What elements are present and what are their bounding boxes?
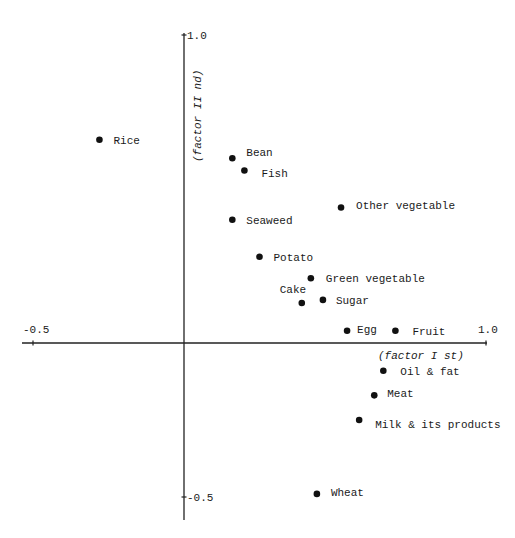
data-point: Cake (280, 284, 306, 306)
data-point: Seaweed (229, 215, 293, 227)
y-tick-label: -0.5 (187, 492, 213, 504)
point-marker (229, 217, 236, 224)
point-label: Milk & its products (375, 419, 500, 431)
x-tick-label: -0.5 (23, 324, 49, 336)
point-label: Potato (274, 252, 314, 264)
point-marker (96, 136, 103, 143)
point-marker (356, 417, 363, 424)
x-axis-title: (factor I st) (378, 350, 464, 362)
point-label: Fruit (412, 326, 445, 338)
data-points: RiceBeanFishSeaweedOther vegetablePotato… (96, 135, 500, 499)
point-marker (320, 297, 327, 304)
data-point: Milk & its products (356, 417, 501, 431)
point-marker (392, 327, 399, 334)
y-axis-title: (factor II nd) (192, 70, 204, 162)
data-point: Potato (256, 252, 313, 264)
data-point: Meat (371, 388, 414, 400)
point-label: Other vegetable (356, 200, 455, 212)
data-point: Bean (229, 147, 273, 161)
point-marker (314, 491, 321, 498)
point-marker (241, 167, 248, 174)
point-marker (308, 275, 315, 282)
point-marker (344, 327, 351, 334)
point-label: Bean (246, 147, 272, 159)
data-point: Fish (241, 167, 288, 179)
data-point: Egg (344, 324, 377, 336)
data-point: Other vegetable (338, 200, 455, 212)
point-label: Rice (113, 135, 139, 147)
data-point: Rice (96, 135, 140, 147)
point-marker (380, 367, 387, 374)
point-label: Meat (387, 388, 413, 400)
point-marker (338, 204, 345, 211)
point-label: Green vegetable (326, 273, 425, 285)
ticks: -0.51.01.0-0.5 (23, 30, 498, 504)
y-tick-label: 1.0 (187, 30, 207, 42)
data-point: Wheat (314, 487, 364, 499)
point-marker (371, 392, 378, 399)
point-marker (298, 300, 305, 307)
data-point: Sugar (320, 295, 369, 307)
point-marker (256, 253, 263, 260)
point-label: Sugar (336, 295, 369, 307)
point-label: Fish (261, 168, 287, 180)
scatter-plot: -0.51.01.0-0.5 (factor I st) (factor II … (0, 0, 515, 538)
data-point: Fruit (392, 326, 445, 338)
point-label: Seaweed (246, 215, 292, 227)
point-label: Oil & fat (400, 366, 459, 378)
point-label: Egg (357, 324, 377, 336)
point-marker (229, 155, 236, 162)
data-point: Green vegetable (308, 273, 425, 285)
x-tick-label: 1.0 (478, 324, 498, 336)
point-label: Cake (280, 284, 306, 296)
point-label: Wheat (331, 487, 364, 499)
data-point: Oil & fat (380, 366, 460, 378)
